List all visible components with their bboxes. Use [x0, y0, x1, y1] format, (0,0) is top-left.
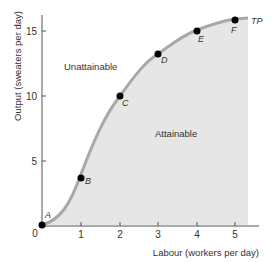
attainable-label: Attainable [155, 128, 197, 139]
unattainable-label: Unattainable [64, 61, 117, 72]
x-axis-title: Labour (workers per day) [153, 247, 259, 258]
point-a [39, 222, 46, 229]
x-tick-label: 2 [117, 229, 123, 240]
x-tick-label: 1 [78, 229, 84, 240]
point-f [232, 17, 239, 24]
y-ticks [42, 31, 46, 161]
y-tick-label: 15 [26, 26, 38, 37]
origin-label: 0 [32, 228, 38, 239]
point-label-d: D [161, 55, 168, 65]
total-product-chart: 15 10 5 0 1 2 3 4 5 Labour (workers per … [0, 0, 277, 262]
tp-curve-label: TP [251, 16, 263, 26]
point-b [78, 175, 85, 182]
y-axis-title: Output (sweaters per day) [12, 11, 23, 121]
point-label-c: C [122, 98, 129, 108]
point-label-a: A [44, 210, 51, 220]
point-label-e: E [198, 34, 205, 44]
x-tick-label: 4 [194, 229, 200, 240]
y-tick-label: 10 [26, 91, 38, 102]
point-label-f: F [231, 25, 237, 35]
x-tick-label: 3 [155, 229, 161, 240]
y-tick-label: 5 [31, 156, 37, 167]
point-label-b: B [85, 176, 91, 186]
x-tick-label: 5 [232, 229, 238, 240]
